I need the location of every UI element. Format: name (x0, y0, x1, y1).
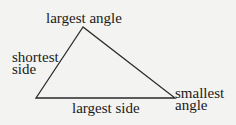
largest-side-label: largest side (72, 102, 140, 114)
shortest-side-label-line2: side (12, 63, 36, 75)
smallest-angle-label-line2: angle (175, 99, 207, 111)
largest-angle-label: largest angle (46, 12, 122, 24)
